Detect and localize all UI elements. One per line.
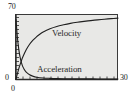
x-axis-min-label: 0: [11, 84, 15, 93]
y-axis-min-label: 0: [5, 73, 9, 82]
chart-plot-svg: [0, 0, 134, 97]
velocity-acceleration-chart: 70 0 0 30 Velocity Acceleration: [0, 0, 134, 97]
y-axis-max-label: 70: [8, 2, 16, 11]
acceleration-series-label: Acceleration: [37, 64, 82, 74]
x-axis-max-label: 30: [120, 73, 128, 82]
velocity-series-label: Velocity: [52, 28, 81, 38]
